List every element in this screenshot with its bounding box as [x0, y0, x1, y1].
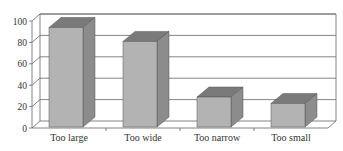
x-axis-category-labels: Too largeToo wideToo narrowToo small [50, 132, 311, 143]
x-category-label: Too large [50, 132, 88, 143]
x-category-label: Too wide [124, 132, 162, 143]
x-category-label: Too narrow [194, 132, 241, 143]
y-tick-label: 0 [22, 124, 27, 134]
y-tick-label: 40 [18, 81, 28, 91]
y-tick-label: 100 [13, 17, 28, 27]
bar-too-small [271, 93, 317, 127]
x-category-label: Too small [271, 132, 311, 143]
bar-too-narrow [197, 87, 243, 127]
y-axis-tick-labels: 020406080100 [13, 17, 28, 134]
y-tick-label: 20 [18, 102, 28, 112]
chart-bars [49, 17, 317, 127]
bar-too-large [49, 17, 95, 127]
bar-chart: 020406080100 Too largeToo wideToo narrow… [0, 0, 343, 151]
y-tick-label: 60 [18, 59, 28, 69]
bar-too-wide [123, 31, 169, 127]
y-tick-label: 80 [18, 38, 28, 48]
